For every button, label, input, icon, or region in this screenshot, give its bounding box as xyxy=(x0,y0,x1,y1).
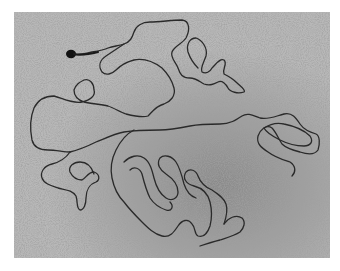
micrograph-background xyxy=(14,12,330,258)
micrograph-image xyxy=(14,12,330,258)
micrograph-svg xyxy=(14,12,330,258)
